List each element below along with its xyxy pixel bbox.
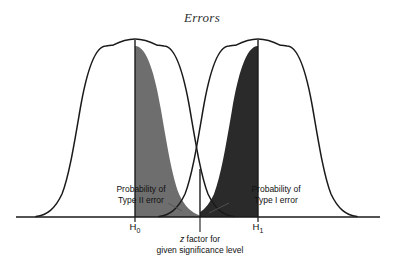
type-ii-error-label: Probability of Type II error [96,184,186,205]
h0-axis-label-subscript: 0 [136,227,140,234]
type-i-error-label-line2: Type I error [231,195,321,206]
h0-axis-label: H0 [118,222,152,233]
z-factor-caption-line1: z factor for [125,234,275,245]
type-i-error-label: Probability of Type I error [231,184,321,205]
z-factor-caption: z factor for given significance level [125,234,275,255]
h1-axis-label: H1 [241,222,275,233]
z-factor-caption-line1-rest: factor for [184,234,220,244]
h1-axis-label-subscript: 1 [259,227,263,234]
type-ii-error-label-line2: Type II error [96,195,186,206]
type-ii-error-label-line1: Probability of [96,184,186,195]
type-i-error-label-line1: Probability of [231,184,321,195]
z-factor-caption-line2: given significance level [125,245,275,256]
